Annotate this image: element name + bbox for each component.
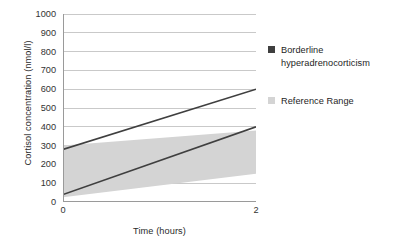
y-tick-label-700: 700: [20, 65, 56, 75]
y-tick-label-200: 200: [20, 159, 56, 169]
y-tick-label-100: 100: [20, 178, 56, 188]
x-tick-label-2: 2: [246, 205, 266, 215]
y-tick-label-500: 500: [20, 103, 56, 113]
legend-entry-reference-range: Reference Range: [268, 95, 394, 108]
y-tick-label-300: 300: [20, 141, 56, 151]
legend-swatch-square-icon: [268, 46, 275, 53]
cortisol-chart: Cortisol concentration (nmol/l) 1000 900…: [0, 0, 397, 247]
x-axis-title: Time (hours): [63, 226, 256, 236]
legend-entry-borderline: Borderline hyperadrenocorticism: [268, 44, 394, 69]
legend-label-reference-range: Reference Range: [281, 95, 354, 108]
chart-legend: Borderline hyperadrenocorticism Referenc…: [268, 44, 394, 134]
y-tick-label-600: 600: [20, 84, 56, 94]
y-tick-label-1000: 1000: [20, 9, 56, 19]
y-tick-label-400: 400: [20, 122, 56, 132]
plot-area: [63, 14, 256, 202]
legend-label-borderline: Borderline hyperadrenocorticism: [281, 44, 394, 69]
plot-svg: [63, 14, 256, 202]
y-tick-label-0: 0: [20, 197, 56, 207]
legend-swatch-square-icon: [268, 97, 275, 104]
y-tick-label-900: 900: [20, 28, 56, 38]
x-tick-label-0: 0: [53, 205, 73, 215]
y-tick-label-800: 800: [20, 47, 56, 57]
